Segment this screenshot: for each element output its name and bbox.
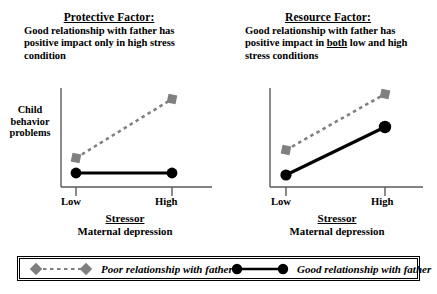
x-tick-labels: Low High <box>0 196 218 212</box>
series-poor-marker-low <box>281 145 292 156</box>
x-axis-title-group: Stressor Maternal depression <box>219 212 437 238</box>
series-good-marker-low <box>71 168 82 179</box>
legend-circle-icon-right <box>278 263 288 273</box>
legend-label-poor: Poor relationship with father <box>101 263 233 275</box>
legend-item-poor: Poor relationship with father <box>28 262 233 276</box>
series-good-marker-high <box>167 168 178 179</box>
legend-inner-border: Poor relationship with father Good relat… <box>19 258 418 279</box>
legend-label-good: Good relationship with father <box>297 263 431 275</box>
panel-description-text: Good relationship with father has positi… <box>24 25 175 61</box>
panel-title-resource: Resource Factor: <box>219 11 437 24</box>
x-axis-subtitle: Maternal depression <box>32 225 218 238</box>
chart-plot-area <box>219 86 437 206</box>
x-tick-label-high: High <box>371 196 393 207</box>
x-tick-label-low: Low <box>271 196 291 207</box>
series-good-marker-low <box>280 169 291 180</box>
panel-description-resource: Good relationship with father has positi… <box>219 25 437 62</box>
legend-diamond-icon-right <box>80 262 92 274</box>
legend-circle-icon-left <box>232 263 242 273</box>
series-good-line <box>286 127 385 175</box>
panel-protective-factor: Protective Factor: Good relationship wit… <box>0 0 218 248</box>
x-axis-title: Stressor <box>106 212 145 224</box>
x-axis-title: Stressor <box>318 212 357 224</box>
x-axis-title-group: Stressor Maternal depression <box>0 212 218 238</box>
y-axis-label: Child behavior problems <box>2 104 58 139</box>
panel-resource-factor: Resource Factor: Good relationship with … <box>219 0 437 248</box>
legend-swatch-poor <box>28 262 94 276</box>
legend-item-good: Good relationship with father <box>230 262 431 276</box>
legend: Poor relationship with father Good relat… <box>17 256 420 281</box>
panel-description-protective: Good relationship with father has positi… <box>0 25 218 62</box>
series-poor-line <box>76 99 172 158</box>
chart-protective-factor: Child behavior problems <box>0 86 218 206</box>
x-tick-labels: Low High <box>219 196 437 212</box>
legend-swatch-good <box>230 262 290 276</box>
legend-diamond-icon-left <box>30 262 42 274</box>
series-poor-marker-high <box>380 89 391 100</box>
x-axis-subtitle: Maternal depression <box>237 225 437 238</box>
x-tick-label-low: Low <box>61 196 81 207</box>
series-poor-marker-high <box>167 94 178 105</box>
chart-resource-factor <box>219 86 437 206</box>
series-poor-marker-low <box>71 153 82 164</box>
series-good-marker-high <box>379 121 391 133</box>
panel-description-emphasis: both <box>327 37 347 48</box>
series-poor-line <box>286 94 385 150</box>
x-tick-label-high: High <box>155 196 177 207</box>
panel-title-protective: Protective Factor: <box>0 11 218 24</box>
